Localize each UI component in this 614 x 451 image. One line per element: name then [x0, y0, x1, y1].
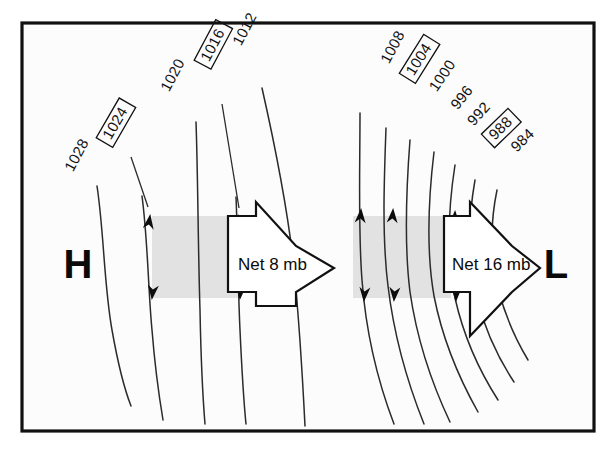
net-gradient-arrow-right-label: Net 16 mb — [452, 255, 530, 274]
low-pressure-center: L — [544, 242, 568, 286]
diagram-frame — [22, 23, 594, 431]
figure-page: 1028102410201016101210081004100099699298… — [0, 0, 614, 451]
high-pressure-center: H — [64, 242, 93, 286]
shade-band-right — [353, 216, 451, 298]
net-gradient-arrow-left-label: Net 8 mb — [238, 255, 307, 274]
shade-band-left — [152, 216, 240, 298]
pressure-gradient-diagram: 1028102410201016101210081004100099699298… — [0, 0, 614, 451]
